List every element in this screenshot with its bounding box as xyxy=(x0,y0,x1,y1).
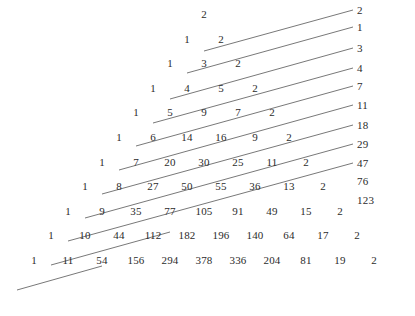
triangle-number: 4 xyxy=(184,82,190,93)
triangle-number: 156 xyxy=(127,255,144,266)
triangle-number: 8 xyxy=(116,181,122,192)
triangle-number: 2 xyxy=(337,205,343,216)
triangle-number: 5 xyxy=(167,107,173,118)
triangle-number: 3 xyxy=(201,58,207,69)
lucas-number: 123 xyxy=(357,195,374,206)
triangle-number: 81 xyxy=(300,255,311,266)
triangle-number: 44 xyxy=(113,230,124,241)
lucas-number: 7 xyxy=(357,81,363,92)
triangle-number: 11 xyxy=(267,156,278,167)
triangle-number: 1 xyxy=(150,82,156,93)
fibonacci-lucas-triangle-figure: 2121321452159721614169217203025112182750… xyxy=(0,0,415,316)
triangle-number: 336 xyxy=(229,255,246,266)
triangle-number: 25 xyxy=(232,156,243,167)
triangle-number: 1 xyxy=(31,255,37,266)
triangle-number: 14 xyxy=(181,132,192,143)
triangle-number: 204 xyxy=(263,255,280,266)
triangle-number: 2 xyxy=(286,132,292,143)
triangle-number: 9 xyxy=(99,205,105,216)
triangle-number: 9 xyxy=(201,107,207,118)
triangle-number: 1 xyxy=(48,230,54,241)
triangle-number: 2 xyxy=(269,107,275,118)
triangle-number: 15 xyxy=(300,205,311,216)
triangle-number: 7 xyxy=(235,107,241,118)
triangle-number: 55 xyxy=(215,181,226,192)
diagonal-line-1 xyxy=(187,27,353,73)
triangle-number: 77 xyxy=(164,205,175,216)
triangle-number: 11 xyxy=(63,255,74,266)
triangle-number: 7 xyxy=(133,156,139,167)
triangle-number: 91 xyxy=(232,205,243,216)
lucas-number: 11 xyxy=(357,100,368,111)
triangle-number: 1 xyxy=(167,58,173,69)
triangle-number: 64 xyxy=(283,230,294,241)
triangle-number: 9 xyxy=(252,132,258,143)
triangle-number: 20 xyxy=(164,156,175,167)
triangle-number: 2 xyxy=(235,58,241,69)
triangle-number: 30 xyxy=(198,156,209,167)
triangle-number: 2 xyxy=(201,9,207,20)
triangle-number: 16 xyxy=(215,132,226,143)
triangle-number: 19 xyxy=(334,255,345,266)
triangle-number: 13 xyxy=(283,181,294,192)
triangle-number: 6 xyxy=(150,132,156,143)
triangle-number: 1 xyxy=(82,181,88,192)
triangle-number: 2 xyxy=(371,255,377,266)
triangle-number: 5 xyxy=(218,82,224,93)
triangle-number: 54 xyxy=(96,255,107,266)
lucas-number: 76 xyxy=(357,176,368,187)
diagonal-line-8 xyxy=(68,163,353,241)
triangle-number: 10 xyxy=(79,230,90,241)
triangle-number: 2 xyxy=(218,33,224,44)
triangle-number: 182 xyxy=(178,230,195,241)
lucas-number: 1 xyxy=(357,22,363,33)
triangle-number: 196 xyxy=(212,230,229,241)
triangle-number: 1 xyxy=(99,156,105,167)
lucas-number: 4 xyxy=(357,63,363,74)
triangle-number: 17 xyxy=(317,230,328,241)
triangle-number: 1 xyxy=(65,205,71,216)
triangle-number: 2 xyxy=(252,82,258,93)
triangle-number: 112 xyxy=(145,230,162,241)
diagonal-line-2 xyxy=(170,48,353,99)
triangle-number: 105 xyxy=(195,205,212,216)
triangle-number: 36 xyxy=(249,181,260,192)
lucas-number: 18 xyxy=(357,120,368,131)
triangle-number: 2 xyxy=(354,230,360,241)
triangle-number: 1 xyxy=(184,33,190,44)
triangle-number: 1 xyxy=(133,107,139,118)
triangle-number: 378 xyxy=(195,255,212,266)
triangle-number: 140 xyxy=(246,230,263,241)
lucas-number: 29 xyxy=(357,139,368,150)
diagonal-line-6 xyxy=(102,125,353,194)
triangle-number: 27 xyxy=(147,181,158,192)
triangle-number: 49 xyxy=(266,205,277,216)
triangle-number: 2 xyxy=(320,181,326,192)
diagonal-line-0 xyxy=(204,10,353,51)
triangle-number: 35 xyxy=(130,205,141,216)
diagonal-line-10 xyxy=(17,266,102,290)
lucas-number: 3 xyxy=(357,43,363,54)
triangle-number: 294 xyxy=(161,255,178,266)
triangle-number: 2 xyxy=(303,156,309,167)
lucas-number: 47 xyxy=(357,158,368,169)
lucas-number: 2 xyxy=(357,5,363,16)
triangle-number: 50 xyxy=(181,181,192,192)
triangle-number: 1 xyxy=(116,132,122,143)
